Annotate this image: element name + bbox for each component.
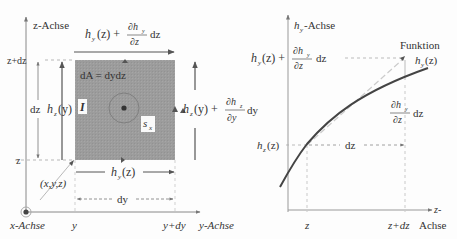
svg-text:h: h xyxy=(183,102,189,116)
svg-text:(z) +: (z) + xyxy=(262,51,285,65)
increment-label: ∂h y ∂z dz xyxy=(390,99,424,125)
z-axis-label: z-Achse xyxy=(33,19,69,31)
y-axis-label: y-Achse xyxy=(198,219,234,231)
current-dot-icon xyxy=(121,105,126,110)
right-field-label: h z (y) + ∂h z ∂y dy xyxy=(180,96,259,123)
function-label: Funktion xyxy=(400,39,440,51)
svg-text:h: h xyxy=(47,102,53,116)
svg-text:y: y xyxy=(91,35,96,43)
svg-text:∂z: ∂z xyxy=(393,114,402,125)
bottom-field-label: h y (z) xyxy=(111,165,135,181)
svg-text:(y): (y) xyxy=(58,102,72,116)
z-plus-dz-tick-label: z+dz xyxy=(387,219,410,231)
svg-text:∂h: ∂h xyxy=(293,45,303,56)
svg-text:z: z xyxy=(239,103,243,109)
z-tick-label: z xyxy=(304,219,310,231)
svg-text:∂h: ∂h xyxy=(226,96,236,107)
svg-text:h: h xyxy=(111,165,117,179)
svg-text:y: y xyxy=(404,106,408,112)
left-field-label: h z (y) xyxy=(47,102,72,118)
left-diagram: z-Achse h y (z) + ∂h y ∂z dz z+dz z dz h… xyxy=(7,17,259,231)
function-curve xyxy=(280,68,428,187)
svg-text:(z): (z) xyxy=(425,54,438,67)
svg-text:z: z xyxy=(262,146,266,154)
svg-text:s: s xyxy=(143,117,147,129)
svg-text:∂y: ∂y xyxy=(227,112,237,123)
svg-text:∂h: ∂h xyxy=(391,99,401,110)
svg-text:-Achse: -Achse xyxy=(304,19,335,31)
svg-text:y: y xyxy=(306,52,310,58)
area-label: dA = dydz xyxy=(80,69,126,81)
point-label: (x,y,z) xyxy=(40,177,67,190)
z-plus-dz-label: z+dz xyxy=(7,55,27,66)
right-diagram: h y -Achse h y (z) + ∂h y ∂z dz Funktion… xyxy=(251,15,447,231)
svg-text:z: z xyxy=(53,110,57,118)
x-axis-label: x-Achse xyxy=(9,219,45,231)
svg-text:∂z: ∂z xyxy=(294,60,303,71)
svg-text:(z) +: (z) + xyxy=(97,27,120,41)
svg-text:(z): (z) xyxy=(122,165,135,179)
z-axis-label-right-2: Achse xyxy=(419,219,447,231)
svg-text:(y) +: (y) + xyxy=(194,102,218,116)
svg-text:dz: dz xyxy=(413,107,424,119)
svg-text:h: h xyxy=(251,51,257,65)
dz-label: dz xyxy=(30,103,41,115)
z-label: z xyxy=(16,155,21,166)
svg-text:z: z xyxy=(189,110,193,118)
top-value-label: h y (z) + ∂h y ∂z dz xyxy=(251,45,327,71)
dz-label-right: dz xyxy=(345,139,356,151)
svg-text:dy: dy xyxy=(247,104,259,116)
svg-text:y: y xyxy=(141,28,145,34)
svg-text:h: h xyxy=(85,27,91,41)
svg-text:∂h: ∂h xyxy=(128,21,138,32)
svg-text:∂z: ∂z xyxy=(130,36,139,47)
y-plus-dy-label: y+dy xyxy=(162,219,186,231)
top-field-label: h y (z) + ∂h y ∂z dz xyxy=(85,21,161,47)
dy-label: dy xyxy=(117,193,129,205)
svg-text:dz: dz xyxy=(150,28,161,40)
z-axis-label-right-1: z- xyxy=(433,204,441,215)
function-value-label: h y (z) xyxy=(415,54,438,69)
svg-text:(z): (z) xyxy=(267,139,280,152)
diagram-svg: z-Achse h y (z) + ∂h y ∂z dz z+dz z dz h… xyxy=(0,0,457,239)
hy-axis-label: h y -Achse xyxy=(294,19,335,34)
y-tick-label: y xyxy=(71,219,77,231)
hz-label: h z (z) xyxy=(257,139,280,154)
diagram-canvas: z-Achse h y (z) + ∂h y ∂z dz z+dz z dz h… xyxy=(0,0,457,239)
svg-text:dz: dz xyxy=(316,52,327,64)
